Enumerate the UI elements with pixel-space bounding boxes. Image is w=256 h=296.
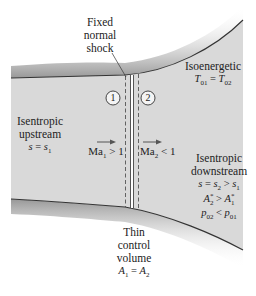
control-volume-label: Thin control volume A1 = A2: [106, 226, 162, 280]
downstream-entropy-eq: s = s2 > s1: [184, 178, 254, 193]
upstream-line1: Isentropic: [10, 115, 70, 128]
stagnation-temperature-eq: T01 = T02: [176, 73, 250, 88]
area-equality-eq: A1 = A2: [106, 265, 162, 280]
section-1-label: 1: [106, 91, 120, 105]
upstream-line2: upstream: [10, 128, 70, 141]
mach-downstream-label: Ma2 < 1: [140, 145, 182, 161]
downstream-line2: downstream: [184, 165, 254, 178]
shock-label-line2: normal: [72, 29, 128, 42]
downstream-label: Isentropic downstream s = s2 > s1 A*2 > …: [184, 152, 254, 222]
critical-area-eq: A*2 > A*1: [184, 193, 254, 207]
isoenergetic-title: Isoenergetic: [176, 60, 250, 73]
downstream-line1: Isentropic: [184, 152, 254, 165]
shock-label-line1: Fixed: [72, 16, 128, 29]
mach-upstream-label: Ma1 > 1: [86, 145, 126, 161]
control-volume-line3: volume: [106, 252, 162, 265]
control-volume-line1: Thin: [106, 226, 162, 239]
stagnation-pressure-eq: p02 < p01: [184, 207, 254, 222]
isoenergetic-label: Isoenergetic T01 = T02: [176, 60, 250, 88]
control-volume-line2: control: [106, 239, 162, 252]
shock-label: Fixed normal shock: [72, 16, 128, 55]
upstream-entropy-eq: s = s1: [10, 141, 70, 156]
upstream-label: Isentropic upstream s = s1: [10, 115, 70, 156]
section-2-label: 2: [141, 91, 155, 105]
shock-label-line3: shock: [72, 42, 128, 55]
